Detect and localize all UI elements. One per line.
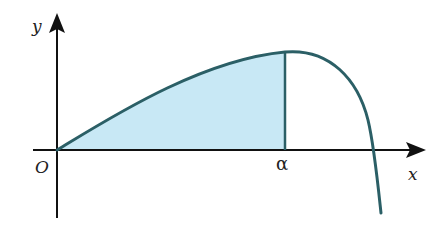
shaded-region xyxy=(57,52,285,150)
origin-label: O xyxy=(35,157,49,177)
y-axis-label: y xyxy=(31,16,42,36)
alpha-label: α xyxy=(276,153,288,174)
x-axis-label: x xyxy=(408,164,418,184)
diagram-canvas: y x O α xyxy=(0,0,434,233)
